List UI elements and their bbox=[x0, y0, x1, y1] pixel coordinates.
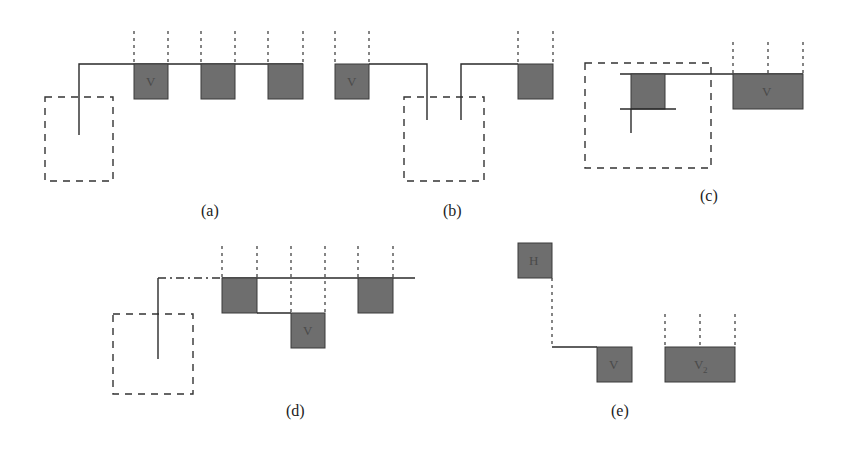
caption-b: (b) bbox=[443, 202, 462, 220]
block-label: V bbox=[762, 84, 772, 99]
dotted-guides bbox=[733, 42, 803, 74]
block-label: V bbox=[347, 74, 357, 89]
connector-line bbox=[369, 64, 427, 120]
caption-e: (e) bbox=[611, 402, 629, 420]
dotted-guides bbox=[335, 31, 553, 64]
panel-d: V (d) bbox=[113, 246, 415, 420]
caption-a: (a) bbox=[201, 202, 219, 220]
panel-a: V (a) bbox=[45, 31, 303, 220]
grey-block bbox=[222, 278, 257, 313]
grey-block bbox=[518, 64, 553, 99]
dashed-region bbox=[113, 314, 193, 394]
panel-c: V (c) bbox=[585, 42, 803, 205]
block-label: V bbox=[303, 323, 313, 338]
dashed-region bbox=[404, 97, 484, 181]
dotted-guides bbox=[134, 31, 303, 64]
grey-block bbox=[631, 74, 665, 109]
grey-block bbox=[268, 64, 303, 99]
grey-block bbox=[358, 278, 393, 313]
dotted-guides bbox=[665, 314, 735, 347]
connector-line bbox=[461, 64, 518, 120]
panel-b: V (b) bbox=[335, 31, 553, 220]
caption-c: (c) bbox=[700, 187, 718, 205]
block-label: V bbox=[609, 357, 619, 372]
grey-block bbox=[201, 64, 235, 99]
diagram-canvas: V (a) V (b) V (c) bbox=[0, 0, 844, 453]
block-label-subscript: 2 bbox=[703, 365, 708, 375]
caption-d: (d) bbox=[286, 402, 305, 420]
block-label: V bbox=[146, 74, 156, 89]
panel-e: H V V 2 (e) bbox=[518, 243, 735, 420]
block-label: H bbox=[529, 253, 538, 268]
